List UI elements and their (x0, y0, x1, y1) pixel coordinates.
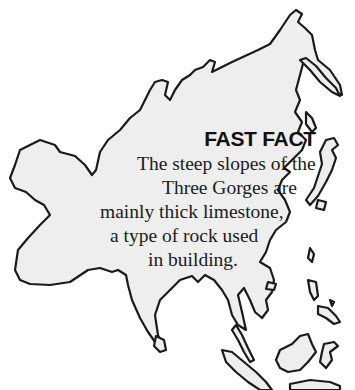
hainan-island (266, 282, 276, 290)
fact-line-5: in building. (148, 248, 238, 272)
borneo-island (276, 334, 316, 372)
sri-lanka-island (154, 336, 166, 352)
fact-line-3: mainly thick limestone, (100, 200, 284, 224)
japan-small-island (316, 200, 326, 210)
java-island (290, 380, 340, 390)
sulawesi-island (320, 342, 338, 368)
fast-fact-heading: FAST FACT (180, 127, 340, 151)
taiwan-island (308, 248, 314, 262)
fact-line-1: The steep slopes of the (137, 152, 316, 176)
philippines-islands (308, 280, 340, 324)
fact-line-4: a type of rock used (110, 224, 258, 248)
fact-line-2: Three Gorges are (162, 176, 297, 200)
